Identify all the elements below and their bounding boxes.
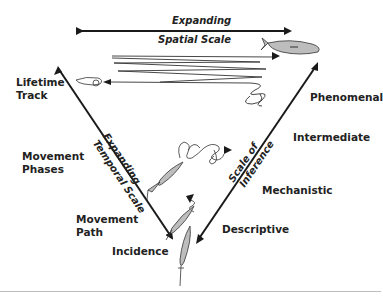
track-arrowhead-left	[103, 79, 111, 85]
lifetime-track-path	[110, 56, 275, 106]
track-arrowhead-right	[272, 52, 280, 60]
bottom-divider	[0, 291, 381, 292]
tuna-fish-icon-incidence	[178, 226, 190, 286]
label-movement: Movement	[22, 150, 84, 163]
label-lifetime: Lifetime	[16, 76, 65, 89]
label-phenomenal: Phenomenal	[310, 91, 383, 104]
label-path: Path	[76, 226, 138, 239]
label-track: Track	[16, 89, 65, 102]
spatial-scale-label-line1: Expanding	[172, 14, 231, 27]
label-movement-phases: Movement Phases	[22, 150, 84, 176]
spatial-scale-label-line2: Spatial Scale	[158, 33, 231, 46]
label-movement-path: Movement Path	[76, 213, 138, 239]
label-lifetime-track: Lifetime Track	[16, 76, 65, 102]
label-movement-2: Movement	[76, 213, 138, 226]
small-fish-icon	[76, 77, 102, 86]
tuna-fish-icon-large	[261, 38, 319, 54]
label-mechanistic: Mechanistic	[262, 184, 333, 197]
label-incidence: Incidence	[112, 245, 169, 258]
label-descriptive: Descriptive	[222, 223, 289, 236]
tuna-fish-icon-middle	[147, 162, 183, 200]
label-phases: Phases	[22, 163, 84, 176]
movement-phases-track	[179, 142, 224, 164]
label-intermediate: Intermediate	[293, 131, 370, 144]
path-arrowhead	[186, 194, 194, 203]
phases-arrowhead	[224, 146, 232, 154]
